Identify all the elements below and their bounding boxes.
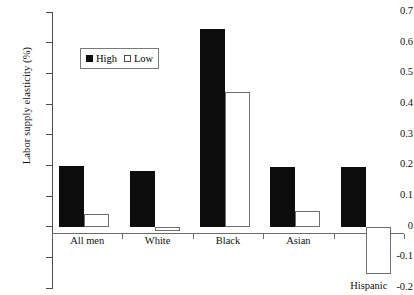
x-axis-label-hispanic: Hispanic	[324, 280, 414, 291]
legend-label-low: Low	[134, 53, 153, 64]
legend-swatch-high-icon	[86, 55, 93, 62]
bar-high-asian	[270, 167, 295, 226]
y-axis-tick-label: 0.6	[369, 37, 413, 48]
y-axis-tick-label: 0.2	[369, 159, 413, 170]
y-axis-tick	[46, 257, 52, 258]
bar-low-hispanic	[366, 227, 391, 275]
y-axis-tick	[46, 12, 52, 13]
legend-entry-high: High	[86, 53, 117, 64]
bar-high-hispanic	[341, 167, 366, 226]
bar-low-all-men	[84, 214, 109, 227]
y-axis-line	[52, 12, 53, 289]
x-axis-tick	[404, 234, 405, 239]
y-axis-tick-label: 0.4	[369, 98, 413, 109]
bar-high-black	[200, 29, 225, 227]
y-axis-tick	[46, 196, 52, 197]
y-axis-tick	[46, 288, 52, 289]
y-axis-tick-label: 0.5	[369, 67, 413, 78]
bar-low-black	[225, 92, 250, 227]
legend-swatch-low-icon	[124, 55, 131, 62]
y-axis-tick	[46, 226, 52, 227]
y-axis-tick	[46, 134, 52, 135]
y-axis-tick	[46, 104, 52, 105]
legend: High Low	[80, 48, 159, 69]
y-axis-title: Labor supply elasticity (%)	[21, 16, 32, 196]
x-axis-label-asian: Asian	[253, 235, 343, 246]
y-axis-tick	[46, 165, 52, 166]
y-axis-tick-label: 0.7	[369, 6, 413, 17]
bar-high-all-men	[59, 166, 84, 226]
y-axis-tick-label: 0.3	[369, 129, 413, 140]
y-axis-tick-label: 0.1	[369, 190, 413, 201]
y-axis-tick	[46, 42, 52, 43]
y-axis-tick	[46, 73, 52, 74]
bar-low-asian	[295, 211, 320, 226]
bar-low-white	[155, 227, 180, 232]
bar-high-white	[130, 171, 155, 227]
legend-entry-low: Low	[124, 53, 153, 64]
legend-label-high: High	[96, 53, 117, 64]
